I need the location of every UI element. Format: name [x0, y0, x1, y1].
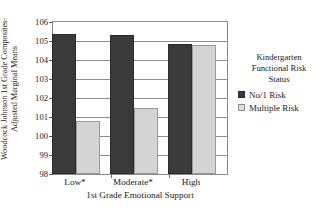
- x-axis-tick-label: Low*: [64, 177, 85, 188]
- y-axis-tick-label: 98: [39, 170, 48, 179]
- bar-multiple-risk: [76, 121, 100, 174]
- bar-group: [169, 22, 227, 174]
- y-axis-title-line-1: Woodcock Johnson 1st Grade Composites-: [0, 0, 10, 178]
- x-axis-title: 1st Grade Emotional Support: [52, 190, 228, 201]
- bar-no-1-risk: [110, 35, 134, 174]
- plot-area: 9899100101102103104105106: [52, 21, 228, 175]
- legend-swatch-icon: [238, 104, 245, 111]
- y-axis-tick-label: 105: [35, 37, 48, 46]
- y-axis-title: Woodcock Johnson 1st Grade Composites- A…: [0, 0, 30, 182]
- legend-item-label: Multiple Risk: [249, 102, 299, 114]
- y-axis-tick-label: 101: [35, 113, 48, 122]
- y-axis-tick-label: 103: [35, 75, 48, 84]
- bar-group: [53, 22, 111, 174]
- legend-item[interactable]: No/1 Risk: [238, 89, 320, 101]
- legend-title-line-3: Status: [238, 74, 320, 85]
- bar-multiple-risk: [134, 108, 158, 174]
- y-axis-tick-label: 106: [35, 18, 48, 27]
- x-axis-tick-labels: Low*Moderate*High: [52, 177, 228, 191]
- legend-item[interactable]: Multiple Risk: [238, 102, 320, 114]
- chart-figure: Woodcock Johnson 1st Grade Composites- A…: [0, 0, 321, 211]
- y-axis-title-line-2: Adjusted Marginal Means: [10, 0, 20, 178]
- y-axis-tick: [49, 174, 53, 175]
- y-axis-tick-label: 99: [39, 151, 48, 160]
- y-axis-tick-label: 104: [35, 56, 48, 65]
- y-axis-tick-label: 100: [35, 132, 48, 141]
- legend-items: No/1 RiskMultiple Risk: [238, 89, 320, 114]
- y-axis-tick-label: 102: [35, 94, 48, 103]
- legend-item-label: No/1 Risk: [249, 89, 286, 101]
- bar-group: [111, 22, 169, 174]
- bar-multiple-risk: [192, 45, 216, 174]
- legend-swatch-icon: [238, 91, 245, 98]
- legend-title: KindergartenFunctional RiskStatus: [238, 52, 320, 86]
- x-axis-tick-label: High: [182, 177, 200, 188]
- legend: KindergartenFunctional RiskStatus No/1 R…: [238, 52, 320, 114]
- bar-no-1-risk: [168, 44, 192, 174]
- bar-no-1-risk: [52, 34, 76, 174]
- legend-title-line-2: Functional Risk: [238, 63, 320, 74]
- x-axis-tick-label: Moderate*: [113, 177, 153, 188]
- legend-title-line-1: Kindergarten: [238, 52, 320, 63]
